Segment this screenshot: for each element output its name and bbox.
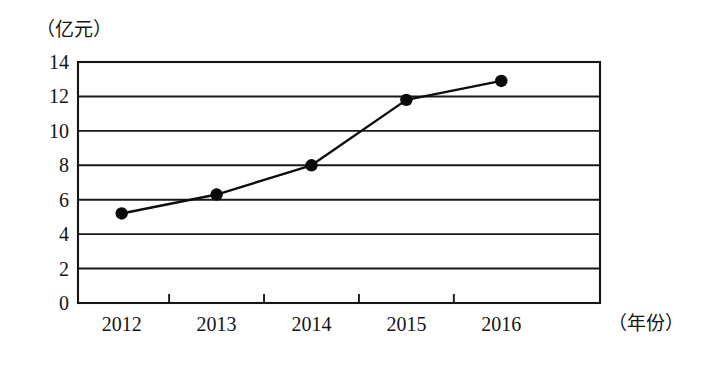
data-point xyxy=(400,94,412,106)
data-point xyxy=(210,188,222,200)
data-point xyxy=(115,207,127,219)
series-line xyxy=(122,81,502,214)
data-point xyxy=(305,159,317,171)
x-axis-tick-marks xyxy=(169,294,454,303)
data-point xyxy=(495,75,507,87)
plot-area xyxy=(0,0,703,368)
plot-frame xyxy=(78,62,600,303)
line-chart: （亿元） （年份） 02468101214 201220132014201520… xyxy=(0,0,703,368)
gridlines xyxy=(78,96,600,268)
